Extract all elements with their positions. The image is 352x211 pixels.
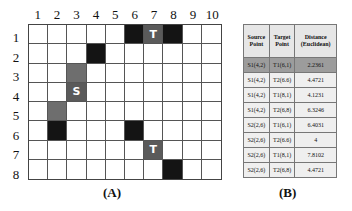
grid-cell [87, 64, 106, 83]
table-header-row: Source Point Target Point Distance (Eucl… [244, 25, 337, 58]
cell-target: T2(6,8) [269, 103, 295, 118]
grid-cell [183, 44, 202, 63]
grid-cell [48, 141, 67, 160]
grid-cell [29, 160, 48, 179]
grid-cell [202, 83, 221, 102]
target-marker: T [150, 143, 158, 156]
grid-cell [202, 64, 221, 83]
grid-cell [106, 102, 125, 121]
cell-target: T1(6,1) [269, 118, 295, 133]
cell-target: T2(6,8) [269, 163, 295, 178]
grid-cell [87, 141, 106, 160]
cell-distance: 4.4721 [295, 163, 337, 178]
table-row: S1(4,2)T1(6,1)2.2361 [244, 58, 337, 73]
grid-cell [183, 141, 202, 160]
grid-cell [125, 64, 144, 83]
obstacle-cell [163, 160, 182, 179]
grid-cell [202, 102, 221, 121]
column-label: 6 [125, 8, 144, 22]
row-label: 5 [9, 109, 23, 123]
grid-cell [29, 44, 48, 63]
grid-cell [144, 121, 163, 140]
row-label: 1 [9, 31, 23, 45]
source-cell: S [67, 83, 86, 102]
cell-source: S1(4,2) [244, 88, 270, 103]
row-label: 7 [9, 148, 23, 162]
cell-distance: 4.1231 [295, 88, 337, 103]
row-label: 8 [9, 168, 23, 182]
grid-cell [163, 141, 182, 160]
column-label: 10 [203, 8, 222, 22]
cell-source: S1(4,2) [244, 103, 270, 118]
grid-cell [29, 121, 48, 140]
column-label: 8 [164, 8, 183, 22]
grid-cell [144, 160, 163, 179]
grid-cell [144, 44, 163, 63]
grid-cell [87, 121, 106, 140]
obstacle-cell [125, 25, 144, 44]
cell-source: S1(4,2) [244, 58, 270, 73]
target-marker: T [150, 28, 158, 41]
grid-cell [144, 64, 163, 83]
column-label: 1 [28, 8, 47, 22]
table-row: S2(2,6)T1(6,1)6.4031 [244, 118, 337, 133]
grid-cell [48, 64, 67, 83]
grid-cell [202, 160, 221, 179]
cell-target: T2(6.6) [269, 133, 295, 148]
target-cell: T [144, 25, 163, 44]
obstacle-cell [125, 121, 144, 140]
grid-cell [163, 44, 182, 63]
cell-distance: 6.3246 [295, 103, 337, 118]
grid-cell [29, 102, 48, 121]
cell-distance: 4 [295, 133, 337, 148]
table-row: S1(4,2)T2(6.6)4.4721 [244, 73, 337, 88]
table-row: S2(2,6)T2(6,8)4.4721 [244, 163, 337, 178]
grid-cell [87, 160, 106, 179]
header-source-point: Source Point [244, 25, 270, 58]
target-cell: T [144, 141, 163, 160]
header-distance: Distance (Euclidean) [295, 25, 337, 58]
grid-cell [125, 141, 144, 160]
grid-cell [87, 25, 106, 44]
distance-table: Source Point Target Point Distance (Eucl… [243, 24, 337, 178]
grid-panel: 12345678910 12345678 TST (A) [0, 0, 235, 211]
path-cell [67, 64, 86, 83]
grid-cell [163, 64, 182, 83]
grid-cell [106, 160, 125, 179]
cell-target: T2(6.6) [269, 73, 295, 88]
cell-target: T1(8,1) [269, 148, 295, 163]
grid-cell [48, 25, 67, 44]
grid-cell [67, 102, 86, 121]
grid-cell [163, 121, 182, 140]
caption-b: (B) [279, 185, 296, 201]
grid-cell [29, 83, 48, 102]
table-row: S1(4,2)T1(8,1)4.1231 [244, 88, 337, 103]
grid-cell [125, 160, 144, 179]
path-cell [48, 102, 67, 121]
column-label: 4 [86, 8, 105, 22]
column-label: 9 [183, 8, 202, 22]
grid-cell [125, 44, 144, 63]
grid-cell [48, 83, 67, 102]
table-row: S2(2,6)T1(8,1)7.8102 [244, 148, 337, 163]
row-label: 3 [9, 70, 23, 84]
grid-cell [67, 44, 86, 63]
table-row: S1(4,2)T2(6,8)6.3246 [244, 103, 337, 118]
grid-cell [67, 141, 86, 160]
grid-cell [48, 44, 67, 63]
grid-cell [144, 83, 163, 102]
header-target-point: Target Point [269, 25, 295, 58]
grid-cell [183, 25, 202, 44]
column-label: 2 [47, 8, 66, 22]
cell-source: S2(2,6) [244, 148, 270, 163]
column-label: 7 [144, 8, 163, 22]
grid-cell [183, 83, 202, 102]
cell-source: S2(2,6) [244, 118, 270, 133]
grid-cell [29, 141, 48, 160]
grid-cell [106, 64, 125, 83]
grid-cell [67, 25, 86, 44]
cell-source: S1(4,2) [244, 73, 270, 88]
grid-cell [202, 141, 221, 160]
table-row: S2(2,6)T2(6.6)4 [244, 133, 337, 148]
grid-cell [106, 83, 125, 102]
